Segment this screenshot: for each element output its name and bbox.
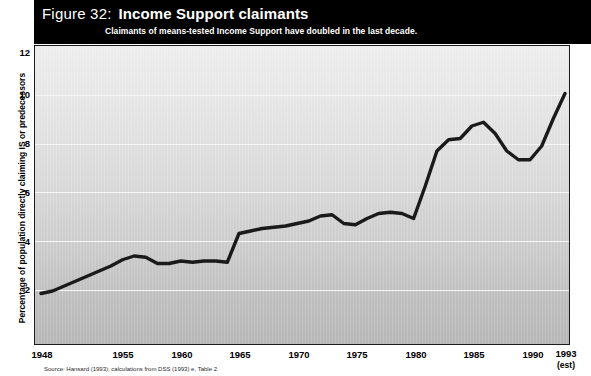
figure-number: Figure 32: [42, 5, 112, 22]
x-tick-1993: 1993 (est) [536, 349, 591, 370]
x-tick-1980: 1980 [386, 349, 446, 360]
x-tick-1955: 1955 [93, 349, 153, 360]
x-tick-1993-estimate-note: (est) [536, 360, 591, 371]
page-title: Income Support claimants [119, 5, 309, 22]
figure-container: Figure 32:Income Support claimants Claim… [0, 0, 591, 376]
x-tick-1985: 1985 [444, 349, 504, 360]
chart-plot-area [34, 45, 570, 345]
figure-header: Figure 32:Income Support claimants Claim… [34, 0, 591, 44]
y-tick-10: 10 [4, 89, 30, 100]
y-tick-12: 12 [4, 47, 30, 58]
x-tick-1993-year: 1993 [555, 348, 576, 359]
y-axis-title: Percentage of population directly claimi… [17, 33, 27, 363]
y-tick-8: 8 [4, 138, 30, 149]
y-tick-2: 2 [4, 284, 30, 295]
figure-subtitle: Claimants of means-tested Income Support… [105, 26, 417, 36]
y-tick-6: 6 [4, 187, 30, 198]
y-tick-4: 4 [4, 236, 30, 247]
x-tick-1965: 1965 [210, 349, 270, 360]
x-tick-1975: 1975 [327, 349, 387, 360]
x-tick-1960: 1960 [152, 349, 212, 360]
data-line-chart [35, 46, 570, 345]
x-tick-1970: 1970 [269, 349, 329, 360]
source-note: Source: Hansard (1993); calculations fro… [44, 366, 217, 372]
x-tick-1948: 1948 [12, 349, 72, 360]
title-row: Figure 32:Income Support claimants [42, 5, 308, 23]
